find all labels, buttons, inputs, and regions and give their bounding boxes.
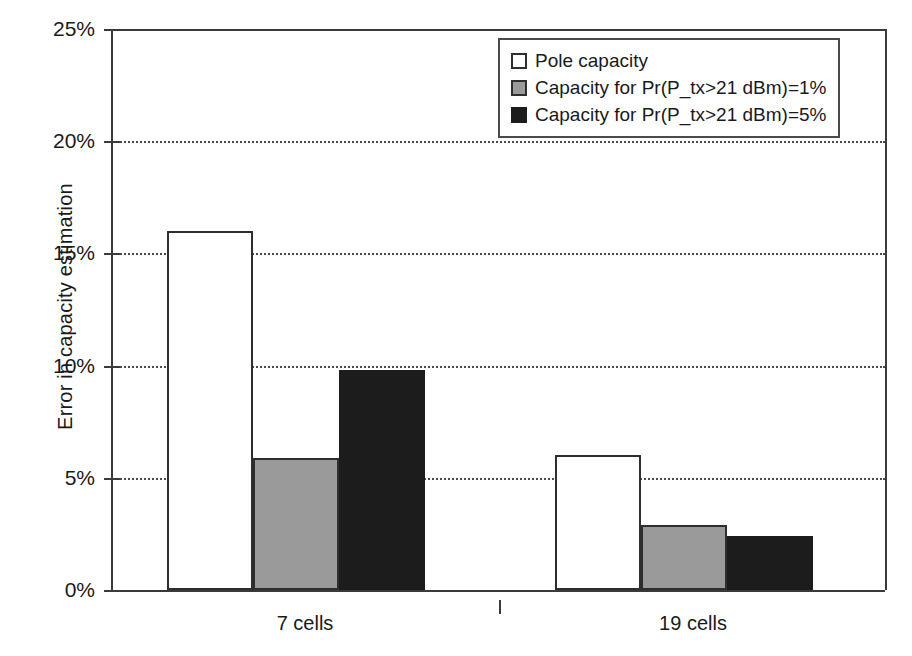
y-tick-label: 0% [25, 578, 95, 602]
bar-19-cells-series-3 [727, 536, 813, 590]
gray-square-icon [511, 80, 527, 96]
y-tick-label: 15% [25, 241, 95, 265]
gridline-25% [113, 29, 885, 31]
legend-item-3: Capacity for Pr(P_tx>21 dBm)=5% [511, 101, 826, 128]
legend-item-1: Pole capacity [511, 47, 826, 74]
bar-chart: Error in capacity estimation 0%5%10%15%2… [0, 0, 912, 656]
legend-item-label: Pole capacity [535, 51, 648, 70]
y-tick-mark [104, 29, 120, 31]
bar-7-cells-series-2 [253, 458, 339, 590]
bar-19-cells-series-1 [555, 455, 641, 590]
chart-legend: Pole capacityCapacity for Pr(P_tx>21 dBm… [498, 38, 840, 138]
y-tick-label: 5% [25, 466, 95, 490]
bar-19-cells-series-2 [641, 525, 727, 590]
gridline-0% [113, 590, 885, 592]
bar-7-cells-series-3 [339, 370, 425, 590]
x-axis-label-7-cells: 7 cells [277, 612, 334, 635]
y-tick-mark [104, 478, 120, 480]
y-tick-mark [104, 366, 120, 368]
y-tick-label: 10% [25, 354, 95, 378]
x-axis-group-tick [499, 600, 501, 614]
black-square-icon [511, 107, 527, 123]
y-tick-label: 25% [25, 17, 95, 41]
bar-7-cells-series-1 [167, 231, 253, 590]
y-tick-mark [104, 253, 120, 255]
gridline-20% [113, 141, 885, 143]
y-axis-tick-labels: 0%5%10%15%20%25% [20, 0, 95, 656]
x-axis-label-19-cells: 19 cells [659, 612, 727, 635]
y-tick-label: 20% [25, 129, 95, 153]
y-tick-mark [104, 141, 120, 143]
x-axis-tick-labels: 7 cells19 cells [111, 600, 887, 650]
y-tick-mark [104, 590, 120, 592]
legend-item-label: Capacity for Pr(P_tx>21 dBm)=1% [535, 78, 826, 97]
legend-item-2: Capacity for Pr(P_tx>21 dBm)=1% [511, 74, 826, 101]
legend-item-label: Capacity for Pr(P_tx>21 dBm)=5% [535, 105, 826, 124]
white-square-icon [511, 53, 527, 69]
